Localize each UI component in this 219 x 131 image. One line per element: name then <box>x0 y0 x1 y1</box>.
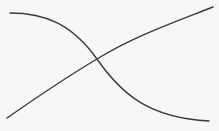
increasing-curve <box>7 7 213 118</box>
crossing-curves-diagram <box>0 0 219 131</box>
decreasing-s-curve <box>10 13 209 121</box>
diagram-canvas <box>0 0 219 131</box>
